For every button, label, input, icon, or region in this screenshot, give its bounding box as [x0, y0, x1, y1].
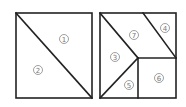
left-square: 1 2: [16, 13, 92, 98]
svg-text:5: 5: [127, 82, 131, 90]
svg-text:1: 1: [62, 36, 66, 44]
piece-label-6: 6: [155, 74, 164, 83]
left-diagonal: [16, 13, 92, 98]
svg-text:7: 7: [132, 32, 136, 40]
diag-lower-left: [100, 58, 138, 98]
right-square: 7 4 3 5 6: [100, 13, 176, 98]
svg-text:3: 3: [113, 54, 117, 62]
piece-label-7: 7: [130, 31, 139, 40]
svg-text:4: 4: [163, 25, 168, 33]
svg-text:2: 2: [36, 67, 40, 75]
tangram-diagram: 1 2 7 4 3 5 6: [0, 0, 186, 107]
piece-label-2: 2: [34, 66, 43, 75]
piece-label-1: 1: [60, 35, 69, 44]
piece-label-5: 5: [125, 81, 134, 90]
piece-label-4: 4: [161, 24, 170, 33]
piece-label-3: 3: [111, 53, 120, 62]
svg-text:6: 6: [157, 75, 162, 83]
diag-upper-right: [143, 13, 176, 58]
